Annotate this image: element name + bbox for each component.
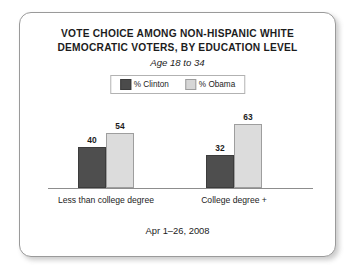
bar-rect (234, 124, 262, 188)
bar-rect (206, 155, 234, 188)
chart-card: VOTE CHOICE AMONG NON-HISPANIC WHITE DEM… (19, 12, 336, 257)
category-label: College degree + (201, 195, 267, 205)
bar-value-label: 63 (243, 113, 252, 122)
bar-group: 40 54 (78, 122, 134, 188)
bar-clinton-college-degree: 32 (206, 144, 234, 188)
bar-rect (106, 133, 134, 188)
chart-title-line-1: VOTE CHOICE AMONG NON-HISPANIC WHITE (20, 27, 335, 41)
chart-footer-date: Apr 1–26, 2008 (20, 225, 335, 236)
chart-title-line-2: DEMOCRATIC VOTERS, BY EDUCATION LEVEL (20, 41, 335, 55)
chart-subtitle: Age 18 to 34 (20, 57, 335, 69)
chart-legend: % Clinton % Obama (110, 75, 245, 94)
bar-value-label: 40 (87, 136, 96, 145)
category-axis-labels: Less than college degree College degree … (48, 195, 313, 209)
chart-card-inner: VOTE CHOICE AMONG NON-HISPANIC WHITE DEM… (20, 13, 335, 256)
bar-rect (78, 147, 106, 188)
bar-clinton-less-than-college: 40 (78, 136, 106, 188)
category-label: Less than college degree (58, 195, 154, 205)
axis-baseline (48, 188, 313, 189)
legend-entry-obama: % Obama (185, 79, 235, 90)
legend-swatch-icon-obama (185, 79, 196, 90)
bar-value-label: 54 (115, 122, 124, 131)
legend-swatch-icon-clinton (120, 79, 131, 90)
bar-value-label: 32 (215, 144, 224, 153)
chart-title-block: VOTE CHOICE AMONG NON-HISPANIC WHITE DEM… (20, 27, 335, 69)
bar-obama-college-degree: 63 (234, 113, 262, 188)
legend-label-obama: % Obama (199, 80, 235, 89)
plot-area: 40 54 32 63 (48, 109, 313, 189)
legend-entry-clinton: % Clinton (120, 79, 169, 90)
bar-group: 32 63 (206, 113, 262, 188)
legend-label-clinton: % Clinton (134, 80, 169, 89)
bar-obama-less-than-college: 54 (106, 122, 134, 188)
